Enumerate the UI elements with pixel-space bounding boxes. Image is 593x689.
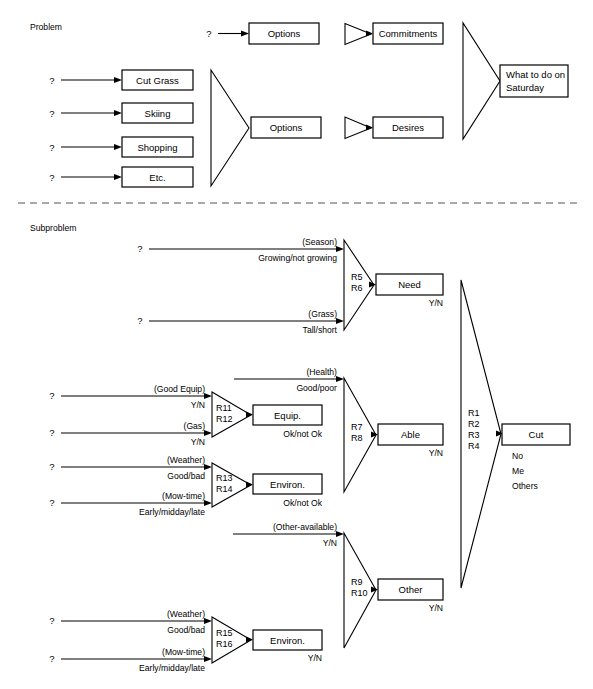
box-goal-label-line1: What to do on xyxy=(506,69,565,80)
box-desires-label: Desires xyxy=(392,122,424,133)
box-etc-label: Etc. xyxy=(149,172,165,183)
box-options-bottom-label: Options xyxy=(270,122,303,133)
problem-input-marker-0: ? xyxy=(49,75,54,86)
label-mowtime2-name: (Mow-time) xyxy=(162,647,205,657)
box-environ-2-values: Y/N xyxy=(308,653,322,663)
arrowhead-grass xyxy=(336,318,344,324)
rule-other-1: R10 xyxy=(351,588,368,598)
rule-able-0: R7 xyxy=(351,422,363,432)
rule-final-0: R1 xyxy=(468,408,480,418)
rule-final-2: R3 xyxy=(468,430,480,440)
box-need-values: Y/N xyxy=(429,298,443,308)
label-weather2-values: Good/bad xyxy=(167,625,205,635)
triangle-final-cut xyxy=(461,280,501,588)
box-equip-values: Ok/not Ok xyxy=(283,429,322,439)
section-label-subproblem: Subproblem xyxy=(30,223,76,233)
arrowhead-season xyxy=(336,246,344,252)
label-weather1-values: Good/bad xyxy=(167,471,205,481)
box-cut-grass-label: Cut Grass xyxy=(136,75,179,86)
label-grass-name: (Grass) xyxy=(308,309,337,319)
label-gas-name: (Gas) xyxy=(184,421,206,431)
arrowhead-shopping xyxy=(114,144,122,150)
label-gas-values: Y/N xyxy=(191,437,205,447)
arrowhead-skiing xyxy=(114,110,122,116)
arrowhead-etc xyxy=(114,174,122,180)
rule-environ1-1: R14 xyxy=(216,484,233,494)
need-input-1-marker: ? xyxy=(137,315,142,326)
arrowhead-cut-grass xyxy=(114,77,122,83)
box-shopping-label: Shopping xyxy=(137,142,177,153)
box-cut-value-0: No xyxy=(512,451,523,461)
label-health-name: (Health) xyxy=(306,367,337,377)
diagram-page: Problem ? Options Commitments ? Cut Gras… xyxy=(0,0,593,689)
rule-environ2-1: R16 xyxy=(216,639,233,649)
rule-equip-1: R12 xyxy=(216,414,233,424)
label-mowtime1-name: (Mow-time) xyxy=(162,491,205,501)
problem-top-input-marker: ? xyxy=(206,28,211,39)
box-cut-value-2: Others xyxy=(512,481,538,491)
box-need-label: Need xyxy=(398,279,421,290)
box-cut-label: Cut xyxy=(529,429,544,440)
arrowhead-mowtime-2 xyxy=(204,656,212,662)
box-commitments-label: Commitments xyxy=(379,28,438,39)
arrowhead-commitments xyxy=(366,31,373,37)
need-input-0-marker: ? xyxy=(137,243,142,254)
rule-need-0: R5 xyxy=(351,272,363,282)
arrowhead-weather-1 xyxy=(204,464,212,470)
label-mowtime2-values: Early/midday/late xyxy=(139,663,205,673)
decision-flow-diagram: Problem ? Options Commitments ? Cut Gras… xyxy=(0,0,593,689)
box-able-values: Y/N xyxy=(429,448,443,458)
rule-other-0: R9 xyxy=(351,577,363,587)
box-environ-1-values: Ok/not Ok xyxy=(283,498,322,508)
label-health-values: Good/poor xyxy=(296,383,337,393)
label-other-available-name: (Other-available) xyxy=(273,522,337,532)
box-able-label: Able xyxy=(401,429,420,440)
environ1-input-1-marker: ? xyxy=(49,497,54,508)
environ2-input-1-marker: ? xyxy=(49,653,54,664)
label-mowtime1-values: Early/midday/late xyxy=(139,507,205,517)
box-other-label: Other xyxy=(399,584,423,595)
box-cut-value-1: Me xyxy=(512,466,524,476)
rule-equip-0: R11 xyxy=(216,403,232,413)
arrowhead-environ-1 xyxy=(246,482,253,488)
problem-input-marker-1: ? xyxy=(49,108,54,119)
arrowhead-environ-2 xyxy=(246,637,253,643)
label-good-equip-name: (Good Equip) xyxy=(154,384,205,394)
arrowhead-mowtime-1 xyxy=(204,500,212,506)
rule-final-1: R2 xyxy=(468,419,480,429)
triangle-options-aggregate xyxy=(211,70,249,186)
rule-final-3: R4 xyxy=(468,441,480,451)
arrowhead-good-equip xyxy=(204,393,212,399)
label-grass-values: Tall/short xyxy=(303,325,338,335)
label-season-name: (Season) xyxy=(302,237,337,247)
arrowhead-top-options xyxy=(241,30,249,36)
label-other-available-values: Y/N xyxy=(323,538,337,548)
rule-environ1-0: R13 xyxy=(216,473,233,483)
box-equip-label: Equip. xyxy=(274,410,301,421)
arrowhead-other-available xyxy=(336,531,344,537)
label-season-values: Growing/not growing xyxy=(258,253,337,263)
rule-environ2-0: R15 xyxy=(216,628,233,638)
box-other-values: Y/N xyxy=(429,603,443,613)
arrowhead-desires xyxy=(366,125,373,131)
arrowhead-weather-2 xyxy=(204,618,212,624)
equip-input-0-marker: ? xyxy=(49,390,54,401)
section-label-problem: Problem xyxy=(30,22,62,32)
environ2-input-0-marker: ? xyxy=(49,615,54,626)
problem-input-marker-2: ? xyxy=(49,142,54,153)
environ1-input-0-marker: ? xyxy=(49,461,54,472)
box-goal-label-line2: Saturday xyxy=(506,82,544,93)
rule-need-1: R6 xyxy=(351,283,363,293)
triangle-goal-aggregate xyxy=(463,23,500,139)
box-environ-1-label: Environ. xyxy=(270,479,305,490)
box-environ-2-label: Environ. xyxy=(270,635,305,646)
arrowhead-equip xyxy=(246,412,253,418)
label-weather2-name: (Weather) xyxy=(167,609,205,619)
label-good-equip-values: Y/N xyxy=(191,400,205,410)
problem-input-marker-3: ? xyxy=(49,172,54,183)
equip-input-1-marker: ? xyxy=(49,427,54,438)
label-weather1-name: (Weather) xyxy=(167,455,205,465)
arrowhead-health xyxy=(336,376,344,382)
box-options-top-label: Options xyxy=(268,28,301,39)
box-skiing-label: Skiing xyxy=(145,108,171,119)
